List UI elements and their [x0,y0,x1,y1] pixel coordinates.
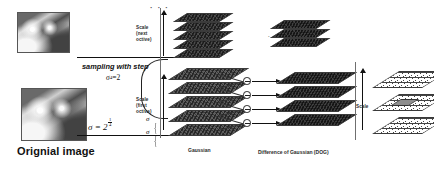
arrow-op4-to-dog4 [252,123,277,124]
dog-plane-first-octave-1 [276,114,338,126]
gaussian-plane-next-octave-5 [173,13,219,22]
scale-first-octave-label-line3: octive) [136,110,152,115]
sampling-sigma-value: =2 [112,73,120,82]
downsampled-image-thumbnail [17,12,70,53]
scale-right-label: Scale [356,105,369,110]
dog-plane-first-octave-3 [276,86,338,98]
dog-extrema-divider-line [355,62,356,140]
subtract-operator-2 [243,91,251,99]
sampling-sigma-equation: σ4 =2 [106,73,120,82]
extrema-grid-plane-top [372,71,422,88]
sampling-with-step-label: sampling with step [82,63,149,71]
subtract-operator-4 [243,119,251,127]
sigma-brace-label-upper: σ [146,116,149,124]
original-image-thumbnail [21,88,87,141]
dog-stack-label: Difference of Gaussian (DOG) [258,150,329,155]
scale-axis-arrow-first-octave [163,78,164,130]
gaussian-plane-next-octave-4 [173,22,219,31]
sigma-exponent-denominator: 4 [108,122,112,128]
arrow-op2-to-dog2 [252,95,277,96]
dog-plane-next-octave-2 [270,29,316,38]
sigma-definition-equation: σ = 2 1 4 [88,122,112,132]
divider-upper [77,57,187,58]
gaussian-plane-next-octave-3 [173,31,219,40]
sigma-exponent-fraction: 1 4 [108,118,112,128]
subtract-operator-1 [243,77,251,85]
scale-next-octave-label-line3: octive) [136,38,152,43]
gaussian-plane-next-octave-1 [173,49,219,58]
dog-plane-first-octave-2 [276,100,338,112]
dog-plane-first-octave-4 [276,72,338,84]
scale-axis-arrow-next-octave [163,14,164,56]
arrow-op3-to-dog3 [252,109,277,110]
subtract-operator-3 [243,105,251,113]
dog-plane-next-octave-1 [270,38,316,47]
extrema-grid-plane-middle [372,94,422,111]
arrow-op1-to-dog1 [252,81,277,82]
sigma-brace-label-lower: σ [146,129,149,137]
dog-plane-next-octave-3 [270,20,316,29]
sigma-brace-lower: { [154,134,157,147]
extrema-grid-plane-bottom [372,117,422,134]
page-title: Orignial image [17,146,95,158]
gaussian-stack-label: Gaussian [188,148,211,153]
gaussian-plane-next-octave-2 [173,40,219,49]
sift-scale-space-diagram: · · · · · · · · · Orignial image samplin… [0,0,434,172]
scale-axis-arrow-extrema [362,72,363,130]
sampling-sigma-symbol: σ [106,73,110,82]
sigma-equation-base: σ = 2 [88,122,108,132]
octave-divider-line [160,8,161,138]
